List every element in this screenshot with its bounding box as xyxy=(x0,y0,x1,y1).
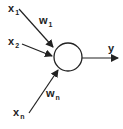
input-label-xn-sub: n xyxy=(20,113,24,120)
weight-label-wn-sub: n xyxy=(56,94,60,101)
input-arrow-2 xyxy=(22,44,52,56)
weight-label-w1-sub: 1 xyxy=(49,21,53,28)
weight-label-w1-base: w xyxy=(39,14,48,26)
input-label-x2: x2 xyxy=(8,36,19,49)
output-label-y-text: y xyxy=(108,42,114,54)
input-label-xn: xn xyxy=(13,107,24,120)
weight-label-wn-base: w xyxy=(46,87,55,99)
input-label-x1-sub: 1 xyxy=(15,9,19,16)
input-label-x2-sub: 2 xyxy=(15,42,19,49)
input-label-xn-base: x xyxy=(13,106,19,118)
input-label-x2-base: x xyxy=(8,35,14,47)
neuron-node xyxy=(54,43,82,71)
weight-label-wn: wn xyxy=(46,88,60,101)
input-label-x1-base: x xyxy=(8,2,14,14)
weight-label-w1: w1 xyxy=(39,15,52,28)
input-label-x1: x1 xyxy=(8,3,19,16)
perceptron-diagram: x1 w1 x2 xn wn y xyxy=(0,0,123,129)
output-label-y: y xyxy=(108,43,114,54)
